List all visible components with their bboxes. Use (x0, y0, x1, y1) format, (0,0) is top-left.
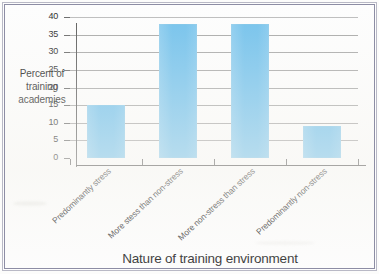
bar (231, 24, 269, 158)
scan-smudge (13, 201, 47, 206)
x-category-label: Predominantly non-stress (242, 166, 329, 248)
x-tick-mark (70, 159, 71, 165)
x-tick-mark (286, 159, 287, 165)
figure-inner-border: 0510152025303540 Predominantly stressMor… (4, 4, 375, 269)
bar-chart-figure: 0510152025303540 Predominantly stressMor… (0, 0, 379, 274)
x-axis-title: Nature of training environment (65, 251, 355, 266)
bar (159, 24, 197, 158)
y-axis-title-line: academies (9, 93, 75, 106)
y-tick-label: 10 (32, 118, 58, 127)
y-tick-label: 0 (32, 153, 58, 162)
y-tick-label: 40 (32, 12, 58, 21)
plot-area (70, 17, 358, 158)
y-axis-title-line: training (9, 80, 75, 93)
x-category-label: Predominantly stress (26, 166, 113, 248)
x-category-label: More stess than non-stress (98, 166, 185, 248)
y-tick-label: 30 (32, 47, 58, 56)
bar (303, 126, 341, 158)
y-tick-label: 35 (32, 30, 58, 39)
x-tick-mark (358, 159, 359, 165)
y-axis-title: Percent oftrainingacademies (9, 67, 75, 106)
y-tick-label: 5 (32, 135, 58, 144)
x-tick-mark (214, 159, 215, 165)
x-tick-mark (142, 159, 143, 165)
y-axis-title-line: Percent of (9, 67, 75, 80)
bar (87, 105, 125, 158)
scan-smudge (255, 241, 315, 245)
x-category-label: More non-stress than stress (170, 166, 257, 248)
